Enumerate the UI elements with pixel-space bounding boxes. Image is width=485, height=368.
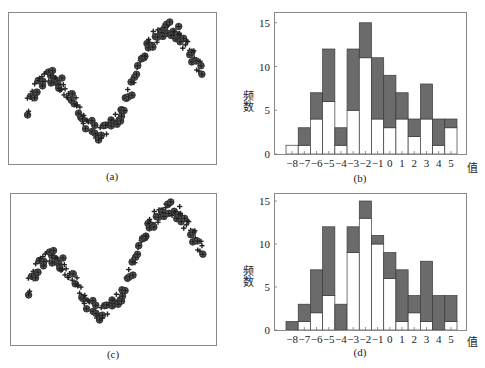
bar-lower: [347, 110, 359, 154]
bar-upper: [323, 227, 335, 296]
y-tick-label: 5: [265, 281, 271, 293]
bar-upper: [384, 253, 396, 279]
circled-plus-marker: [50, 247, 57, 254]
bar-upper: [310, 93, 322, 119]
bar-upper: [445, 119, 457, 128]
bar-lower: [372, 244, 384, 330]
x-tick-label: −6: [311, 333, 323, 345]
circled-plus-marker: [24, 112, 31, 119]
y-tick-label: 10: [259, 61, 271, 73]
bar-lower: [323, 296, 335, 330]
circled-plus-marker: [40, 78, 47, 85]
circled-plus-marker: [35, 269, 42, 276]
x-tick-label: −7: [298, 333, 310, 345]
plus-marker: [126, 267, 131, 272]
circled-plus-marker: [166, 19, 173, 26]
x-tick-label: −4: [335, 157, 347, 169]
figure-canvas: (a) (c) −8−7−6−5−4−3−2−1012345051015 频数 …: [0, 0, 485, 368]
circled-plus-marker: [199, 71, 206, 78]
circled-plus-marker: [198, 62, 205, 69]
x-tick-label: −7: [298, 157, 310, 169]
x-tick-label: 1: [399, 333, 405, 345]
circled-plus-marker: [134, 62, 141, 69]
scatter-points-a: [24, 19, 205, 144]
histogram-bars-d: [286, 201, 457, 330]
bar-lower: [420, 119, 432, 154]
circled-plus-marker: [133, 71, 140, 78]
bar-lower: [384, 278, 396, 330]
x-tick-label: −1: [372, 157, 384, 169]
bar-upper: [372, 58, 384, 119]
bar-upper: [420, 84, 432, 119]
y-axis-label-d: 频数: [242, 264, 255, 288]
bar-lower: [359, 58, 371, 154]
circled-plus-marker: [60, 255, 67, 262]
x-tick-label: −1: [372, 333, 384, 345]
scatter-panel-c: (c): [11, 194, 217, 362]
plus-marker: [199, 243, 204, 248]
x-tick-label: −5: [323, 157, 335, 169]
x-tick-label: 0: [387, 333, 393, 345]
circled-plus-marker: [200, 251, 207, 258]
bar-lower: [384, 128, 396, 154]
plus-marker: [180, 46, 185, 51]
caption-d: (d): [354, 346, 367, 359]
circled-plus-marker: [25, 292, 32, 299]
bar-upper: [445, 296, 457, 322]
scatter-panel-a: (a): [9, 13, 217, 184]
caption-b: (b): [354, 172, 367, 185]
circled-plus-marker: [41, 258, 48, 265]
bar-lower: [323, 102, 335, 155]
x-tick-label: 1: [399, 157, 405, 169]
circled-plus-marker: [49, 67, 56, 74]
x-tick-label: −4: [335, 333, 347, 345]
x-tick-label: 2: [412, 157, 418, 169]
y-tick-label: 5: [265, 104, 271, 116]
circled-plus-marker: [130, 272, 137, 279]
plus-marker: [114, 292, 119, 297]
bar-upper: [310, 270, 322, 313]
circled-plus-marker: [122, 287, 129, 294]
bar-upper: [347, 227, 359, 253]
x-tick-label: −6: [311, 157, 323, 169]
bar-upper: [359, 23, 371, 58]
x-tick-label: 3: [424, 333, 430, 345]
caption-a: (a): [106, 170, 119, 183]
bar-upper: [408, 296, 420, 313]
bar-upper: [335, 128, 347, 146]
x-tick-label: 5: [448, 333, 454, 345]
bar-upper: [433, 119, 445, 145]
x-tick-label: 4: [436, 157, 442, 169]
plus-marker: [177, 204, 182, 209]
bar-upper: [298, 128, 310, 146]
circled-plus-marker: [91, 122, 98, 129]
bar-lower: [396, 119, 408, 154]
y-tick-label: 0: [265, 148, 271, 160]
x-tick-label: 2: [412, 333, 418, 345]
bar-upper: [433, 296, 445, 330]
bar-upper: [298, 304, 310, 321]
caption-c: (c): [107, 348, 120, 361]
bar-lower: [310, 119, 322, 154]
x-tick-label: −3: [347, 157, 359, 169]
bar-upper: [347, 49, 359, 110]
histogram-bars-b: [286, 23, 457, 154]
circled-plus-marker: [135, 242, 142, 249]
y-tick-label: 15: [259, 17, 271, 29]
bar-lower: [445, 128, 457, 154]
circled-plus-marker: [59, 75, 66, 82]
x-tick-label: −8: [286, 333, 298, 345]
circled-plus-marker: [167, 199, 174, 206]
bar-upper: [384, 75, 396, 128]
x-axis-label-b: 值: [467, 162, 478, 174]
bar-upper: [335, 304, 347, 330]
circled-plus-marker: [34, 89, 41, 96]
x-tick-label: −8: [286, 157, 298, 169]
bar-upper: [396, 93, 408, 119]
circled-plus-marker: [129, 92, 136, 99]
plus-marker: [125, 87, 130, 92]
circled-plus-marker: [82, 126, 89, 133]
histogram-panel-b: −8−7−6−5−4−3−2−1012345051015 频数 值 (b): [242, 13, 478, 186]
circled-plus-marker: [151, 224, 158, 231]
circled-plus-marker: [134, 251, 141, 258]
